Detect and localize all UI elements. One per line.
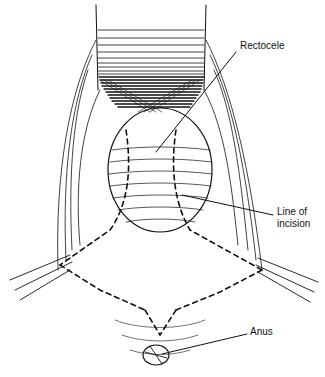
drawing xyxy=(0,0,325,377)
label-anus: Anus xyxy=(250,326,273,338)
label-rectocele: Rectocele xyxy=(240,40,284,52)
label-line-of-incision-line2: incision xyxy=(277,218,310,230)
anatomical-illustration: Rectocele Line of incision Anus xyxy=(0,0,325,377)
label-line-of-incision-line1: Line of xyxy=(277,206,307,218)
